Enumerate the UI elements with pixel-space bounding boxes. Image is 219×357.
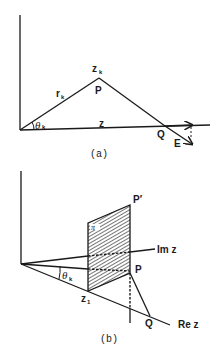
label-z1: z — [81, 293, 86, 304]
figure-canvas: z k P r k θ k z Q E (a) P′ π Im z P θ k … — [0, 0, 219, 357]
label-zk-sub: k — [99, 69, 103, 75]
im-axis-part2 — [130, 249, 155, 252]
label-theta-a: θ — [35, 119, 41, 131]
pq-segment — [99, 78, 165, 126]
label-rk: r — [56, 88, 60, 99]
theta-arc-b — [59, 266, 60, 279]
caption-b: (b) — [100, 334, 118, 345]
label-z1-sub: 1 — [87, 299, 91, 305]
label-zk: z — [92, 63, 97, 74]
figure-b: P′ π Im z P θ k z 1 Q Re z (b) — [21, 171, 199, 345]
pi-plane — [88, 205, 130, 291]
label-Im-z: Im z — [157, 244, 176, 255]
label-P-a: P — [95, 85, 102, 96]
label-E: E — [174, 138, 181, 149]
caption-a: (a) — [90, 149, 108, 160]
label-rk-sub: k — [61, 94, 65, 100]
label-z-a: z — [99, 118, 104, 129]
label-theta-b-sub: k — [69, 276, 73, 282]
figure-a: z k P r k θ k z Q E (a) — [20, 15, 210, 160]
label-theta-b: θ — [62, 269, 68, 281]
label-Re-z: Re z — [178, 319, 199, 330]
label-P-prime: P′ — [133, 194, 143, 205]
label-Q-b: Q — [145, 318, 153, 329]
im-axis-part1 — [21, 256, 88, 264]
theta-arc-a — [32, 122, 34, 130]
label-Q-a: Q — [157, 129, 165, 140]
label-P-b: P — [135, 264, 142, 275]
